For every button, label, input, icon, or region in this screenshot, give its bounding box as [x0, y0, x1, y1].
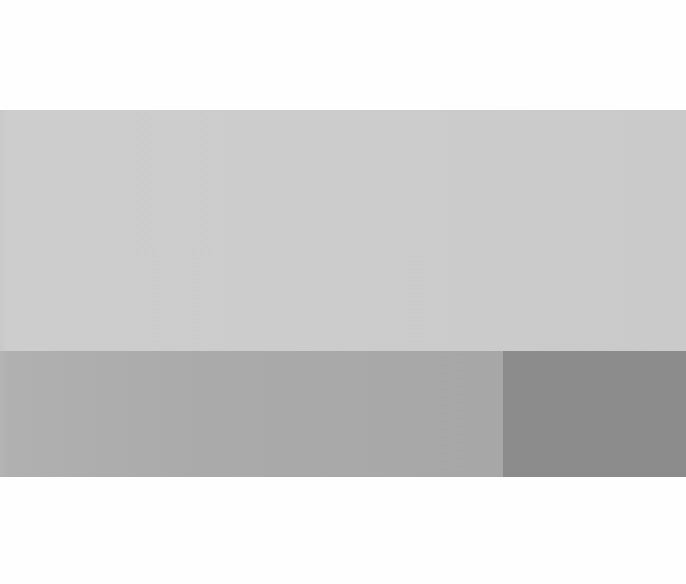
dark-gray-panel: [503, 351, 686, 477]
canvas: [0, 0, 686, 584]
visible-text: [0, 0, 1, 1]
light-gray-panel: [0, 110, 686, 351]
medium-gray-panel: [0, 351, 503, 477]
